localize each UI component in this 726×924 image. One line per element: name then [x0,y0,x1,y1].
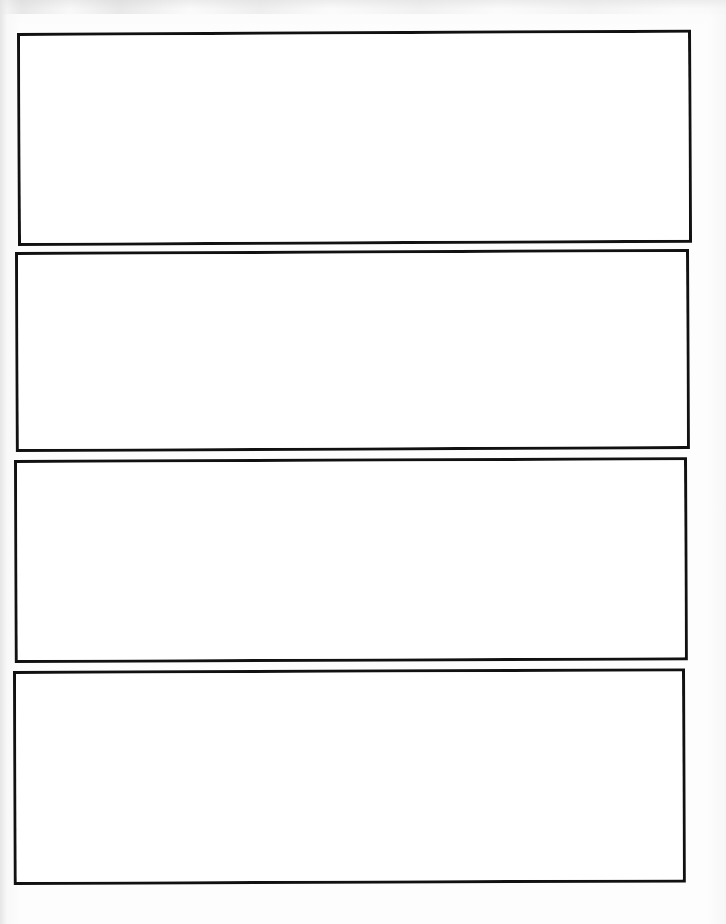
panel-1[interactable] [17,30,692,246]
panel-1-interior [20,33,689,243]
panel-4-interior [16,671,683,882]
scanned-page [0,0,726,924]
panel-2[interactable] [15,249,690,452]
panel-2-interior [18,252,687,449]
panel-3[interactable] [14,457,688,663]
panel-3-interior [17,460,685,660]
scanner-streak-artifact [0,0,726,14]
panel-4[interactable] [13,668,686,885]
